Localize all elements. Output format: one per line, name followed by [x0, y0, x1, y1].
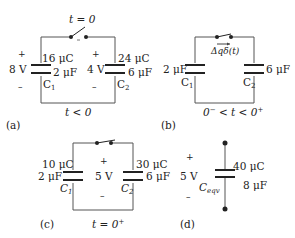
capacitance-c1-c: 2 μF [38, 171, 62, 182]
panel-tag-b: (b) [161, 120, 176, 131]
minus-sign-c2-a: – [92, 83, 97, 92]
label-c1-c: C1 [60, 183, 73, 196]
time-label-a: t < 0 [65, 107, 91, 118]
capacitance-c2-b: 6 μF [266, 64, 290, 75]
panel-tag-a: (a) [6, 120, 20, 131]
capacitance-c2-c: 6 μF [146, 171, 170, 182]
voltage-c: 5 V [95, 171, 113, 182]
voltage-c1-a: 8 V [9, 64, 27, 75]
time-label-b: 0− < t < 0+ [203, 107, 263, 118]
minus-sign-d: – [186, 193, 191, 202]
label-c2-c: C2 [121, 183, 134, 196]
switch-time-label-a: t = 0 [69, 14, 95, 25]
charge-c1-a: 16 μC [42, 53, 74, 64]
capacitance-ceq-d: 8 μF [243, 180, 267, 191]
circuit-d [215, 143, 235, 208]
circuit-diagrams [0, 0, 295, 238]
label-c2-a: C2 [117, 79, 130, 92]
plus-sign-d: + [186, 153, 194, 162]
panel-tag-c: (c) [40, 219, 54, 230]
plus-sign-c2-a: + [92, 50, 100, 59]
label-c2-b: C2 [243, 77, 256, 90]
charge-ceq-d: 40 μC [233, 161, 265, 172]
capacitance-c2-a: 6 μF [128, 67, 152, 78]
plus-sign-c: + [100, 157, 108, 166]
capacitance-c1-b: 2 μF [163, 64, 187, 75]
minus-sign-c1-a: – [18, 83, 23, 92]
label-c1-a: C1 [43, 79, 56, 92]
charge-c2-c: 30 μC [136, 159, 168, 170]
charge-c2-a: 24 μC [118, 53, 150, 64]
minus-sign-c: – [100, 192, 105, 201]
voltage-c2-a: 4 V [87, 64, 105, 75]
circuit-b [185, 34, 264, 103]
plus-sign-c1-a: + [18, 50, 26, 59]
panel-tag-d: (d) [180, 219, 195, 230]
switch-a-contacts [69, 35, 88, 39]
label-c1-b: C1 [181, 77, 194, 90]
charge-c1-c: 10 μC [42, 159, 74, 170]
time-label-c: t = 0+ [92, 219, 124, 230]
label-ceq-d: Ceqv [199, 182, 220, 195]
capacitance-c1-a: 2 μF [53, 67, 77, 78]
voltage-d: 5 V [180, 171, 198, 182]
impulse-label-b: Δqδ(t) [211, 47, 239, 56]
